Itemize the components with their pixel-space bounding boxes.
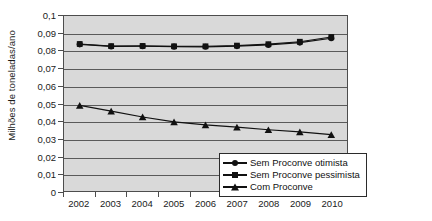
legend-swatch: [223, 169, 247, 181]
legend-marker-square: [232, 172, 238, 178]
x-axis-tick-label: 2005: [163, 198, 184, 209]
legend-label: Sem Proconve otimista: [250, 157, 348, 169]
legend-item: Sem Proconve otimista: [223, 157, 360, 169]
y-axis-tick-label: 0,05: [38, 98, 57, 109]
y-axis-title: Milhões de toneladas/ano: [0, 0, 22, 196]
data-point: [297, 39, 303, 45]
x-axis-tick-label: 2004: [132, 198, 153, 209]
y-axis-tick-label: 0,08: [38, 45, 57, 56]
data-point: [266, 41, 272, 47]
data-point: [234, 43, 240, 49]
data-point: [171, 43, 177, 49]
y-axis-tick-label: 0,09: [38, 27, 57, 38]
data-point: [328, 34, 334, 40]
y-axis-tick-label: 0: [51, 187, 56, 198]
data-point: [77, 41, 83, 47]
legend-marker-triangle: [231, 184, 239, 191]
y-axis-tick-label: 0,01: [38, 169, 57, 180]
y-axis-tick-label: 0,06: [38, 80, 57, 91]
x-axis-tick: [126, 192, 127, 197]
chart-legend: Sem Proconve otimistaSem Proconve pessim…: [219, 153, 367, 197]
legend-label: Com Proconve: [250, 181, 313, 193]
legend-marker-circle: [232, 160, 238, 166]
x-axis-tick-label: 2002: [68, 198, 89, 209]
x-axis-tick-label: 2003: [100, 198, 121, 209]
x-axis-tick-label: 2008: [258, 198, 279, 209]
x-axis-tick-label: 2010: [322, 198, 343, 209]
data-point: [203, 43, 209, 49]
series-triangle: [76, 102, 335, 138]
y-axis-tick-label: 0,07: [38, 63, 57, 74]
data-point: [108, 43, 114, 49]
legend-swatch: [223, 181, 247, 193]
y-axis-tick-labels: 00,010,020,030,040,050,060,070,080,090,1: [22, 0, 60, 221]
legend-swatch: [223, 157, 247, 169]
x-axis-tick-label: 2007: [227, 198, 248, 209]
legend-item: Sem Proconve pessimista: [223, 169, 360, 181]
series-line: [80, 105, 332, 134]
x-axis-tick-labels: 200220032004200520062007200820092010: [63, 198, 348, 214]
data-point: [140, 43, 146, 49]
legend-item: Com Proconve: [223, 181, 360, 193]
x-axis-tick-label: 2006: [195, 198, 216, 209]
x-axis-tick: [95, 192, 96, 197]
legend-label: Sem Proconve pessimista: [250, 169, 360, 181]
y-axis-tick-label: 0,02: [38, 151, 57, 162]
y-axis-tick-label: 0,03: [38, 133, 57, 144]
y-axis-tick-label: 0,04: [38, 116, 57, 127]
x-axis-tick: [63, 192, 64, 197]
x-axis-tick-label: 2009: [290, 198, 311, 209]
y-axis-tick-label: 0,1: [43, 10, 56, 21]
chart-figure: Milhões de toneladas/ano 00,010,020,030,…: [0, 0, 432, 221]
x-axis-tick: [190, 192, 191, 197]
x-axis-tick: [158, 192, 159, 197]
